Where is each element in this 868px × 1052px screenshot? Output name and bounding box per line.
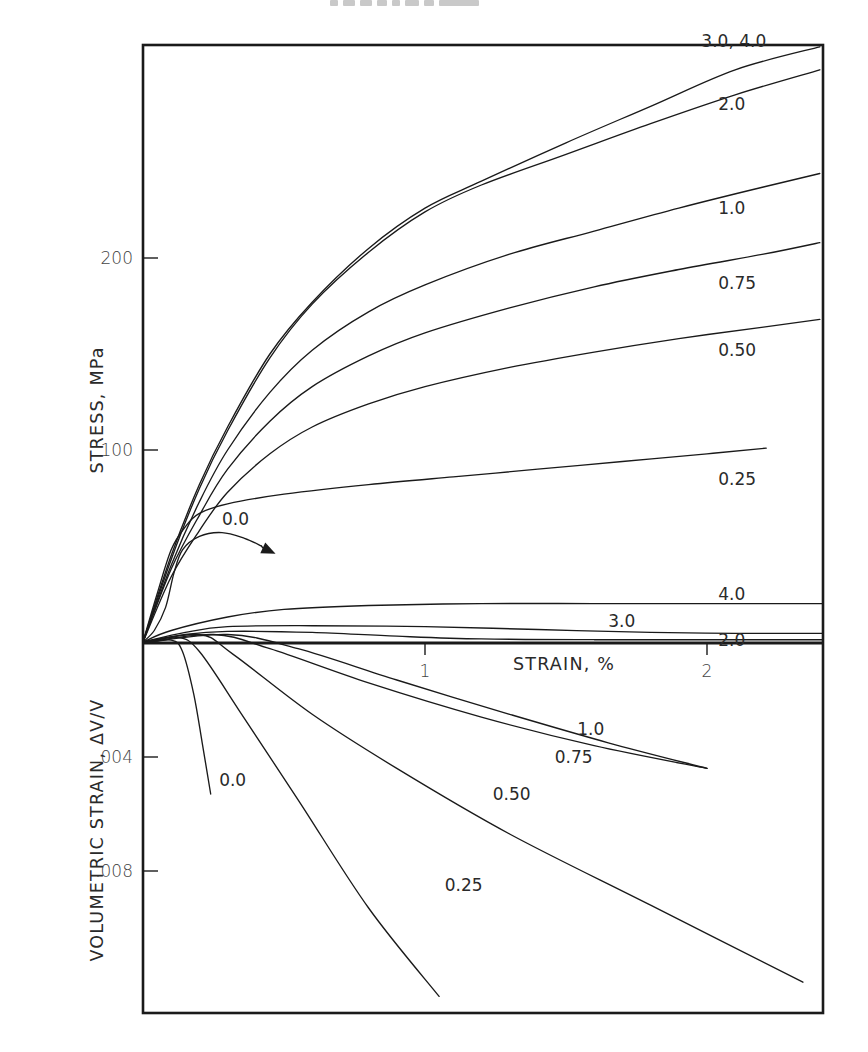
stress-curve-label: 0.50: [718, 340, 756, 360]
stress-curve-label: 0.75: [718, 273, 756, 293]
stress-curve: [143, 174, 820, 643]
volumetric-curve-label: 0.50: [493, 784, 531, 804]
stress-strain-chart: 12100200.004.008 3.0, 4.02.01.00.750.500…: [0, 0, 868, 1052]
volumetric-axis-title: VOLUMETRIC STRAIN, ΔV/V: [87, 698, 107, 961]
volumetric-curve: [143, 640, 211, 794]
arrow-shaft: [261, 546, 262, 548]
stress-curve-label: 3.0, 4.0: [701, 31, 766, 51]
stress-curve-label: 2.0: [718, 94, 745, 114]
stress-axis-title: STRESS, MPa: [87, 346, 107, 473]
stress-curve-label: 4.0: [718, 584, 745, 604]
volumetric-curve-label: 0.75: [555, 747, 593, 767]
axis-ticks: 12100200.004.008: [95, 248, 712, 881]
volumetric-curve: [143, 634, 803, 982]
x-tick-label: 1: [420, 661, 431, 681]
stress-curve-label: 1.0: [718, 198, 745, 218]
stress-curve-label: 0.0: [222, 509, 249, 529]
stress-curve-label: 3.0: [608, 611, 635, 631]
stress-curve: [143, 243, 820, 642]
volumetric-curve-label: 0.25: [445, 875, 483, 895]
stress-tick-label: 200: [101, 248, 133, 268]
stress-curve-label: 0.25: [718, 469, 756, 489]
x-axis-title: STRAIN, %: [513, 654, 615, 674]
x-tick-label: 2: [702, 661, 713, 681]
stress-curve: [143, 448, 766, 642]
stress-curve-label: 2.0: [718, 630, 745, 650]
volumetric-curves: [143, 634, 803, 996]
volumetric-curve-label: 0.0: [219, 770, 246, 790]
curve-labels: 3.0, 4.02.01.00.750.500.250.04.03.02.00.…: [219, 31, 766, 895]
volumetric-curve-label: 1.0: [577, 719, 604, 739]
